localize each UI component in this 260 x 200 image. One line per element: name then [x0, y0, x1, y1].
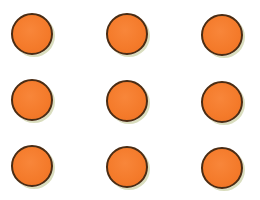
orange-dot [106, 80, 148, 122]
orange-dot [201, 81, 243, 123]
orange-dot [11, 145, 53, 187]
orange-dot [106, 146, 148, 188]
orange-dot [106, 13, 148, 55]
orange-dot [11, 13, 53, 55]
orange-dot [201, 14, 243, 56]
orange-dot [11, 79, 53, 121]
orange-dot [201, 147, 243, 189]
